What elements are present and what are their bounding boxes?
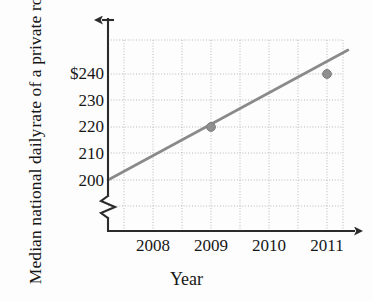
chart-figure: $240 230 220 210 200 2008 2009 2010 2011… (0, 0, 373, 301)
trend-line (108, 50, 348, 180)
y-tick-label-200: 200 (48, 172, 104, 189)
x-axis-tick-labels: 2008 2009 2010 2011 (0, 236, 373, 260)
data-point-2011 (323, 70, 332, 79)
grid-horizontal (108, 40, 343, 206)
y-tick-label-240: $240 (48, 65, 104, 82)
x-axis-title: Year (0, 268, 373, 290)
x-tick-label-2008: 2008 (123, 236, 183, 256)
data-point-2009 (207, 123, 216, 132)
x-tick-label-2009: 2009 (181, 236, 241, 256)
x-tick-label-2011: 2011 (297, 236, 357, 256)
grid-vertical (124, 40, 343, 231)
y-tick-label-220: 220 (48, 118, 104, 135)
y-tick-label-230: 230 (48, 92, 104, 109)
x-tick-label-2010: 2010 (239, 236, 299, 256)
y-tick-label-210: 210 (48, 145, 104, 162)
